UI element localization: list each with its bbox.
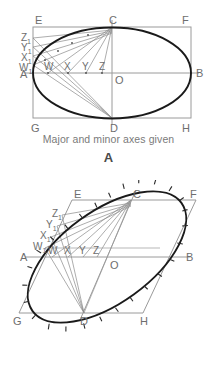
label-D: D [80, 315, 88, 327]
label-O: O [110, 259, 119, 271]
label-E: E [35, 14, 42, 26]
label-C: C [133, 188, 141, 200]
label-H: H [140, 315, 148, 327]
figure-a-major-minor-axes: E C F A B O G D H W X Y Z Z1 Y1 X1 W1 Ma… [0, 0, 217, 185]
label-Y: Y [82, 61, 89, 72]
label-W: W [48, 245, 58, 256]
ellipse-curve-group [6, 180, 209, 348]
label-X: X [64, 61, 71, 72]
label-Z1: Z1 [52, 208, 62, 221]
label-F: F [182, 14, 189, 26]
label-G: G [13, 315, 22, 327]
ellipse-curve [6, 180, 209, 348]
label-W: W [44, 61, 54, 72]
label-W1: W1 [33, 241, 46, 254]
label-Y: Y [79, 245, 86, 256]
label-Z: Z [93, 245, 99, 256]
figure-b-conjugate-diameters: E C F A B O G D H W X Y Z Z1 Y1 X1 W1 Co… [0, 180, 217, 370]
label-O: O [115, 74, 124, 86]
label-F: F [190, 188, 197, 200]
figure-a-letter: A [0, 150, 217, 165]
figure-b-drawing: E C F A B O G D H W X Y Z Z1 Y1 X1 W1 [0, 180, 217, 370]
label-Y1: Y1 [46, 219, 57, 232]
label-X: X [64, 245, 71, 256]
label-A: A [20, 251, 28, 263]
figure-a-caption: Major and minor axes given [0, 133, 217, 145]
label-C: C [109, 14, 117, 26]
label-B: B [196, 67, 203, 79]
label-B: B [186, 251, 193, 263]
label-Z: Z [99, 61, 105, 72]
label-E: E [74, 188, 81, 200]
